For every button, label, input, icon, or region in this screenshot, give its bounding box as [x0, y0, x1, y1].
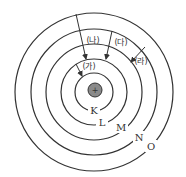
- transition-ra-label: (라): [134, 57, 147, 66]
- transition-da-arrow: [106, 31, 112, 59]
- shell-label-k: K: [90, 105, 98, 116]
- transition-ga-arrow: [76, 64, 82, 76]
- transition-na-label: (나): [86, 36, 99, 45]
- shell-label-o: O: [147, 141, 155, 152]
- transition-na-arrow: [76, 14, 86, 59]
- transition-da-label: (다): [114, 38, 127, 47]
- shell-label-n: N: [135, 132, 144, 143]
- nucleus-symbol: +: [92, 86, 99, 95]
- transition-ga-label: (가): [82, 62, 95, 71]
- bohr-diagram: + K L M N O (가) (나) (다) (라): [0, 0, 186, 177]
- shell-label-l: L: [99, 117, 106, 128]
- shell-label-m: M: [116, 122, 126, 133]
